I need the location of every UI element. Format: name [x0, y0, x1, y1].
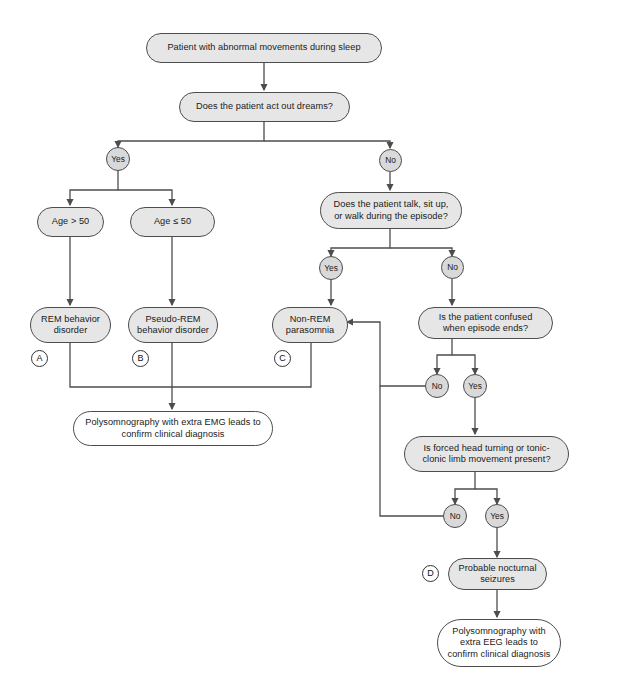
decision-talk-no-label: No [447, 263, 458, 272]
decision-head-yes-label: Yes [490, 512, 504, 521]
decision-confused-no-label: No [432, 382, 443, 391]
decision-talk-no[interactable]: No [441, 256, 464, 279]
flowchart-canvas: Patient with abnormal movements during s… [0, 0, 617, 692]
edge-yes-to-age-under [118, 190, 172, 205]
node-question-confused[interactable]: Is the patient confused when episode end… [418, 307, 553, 339]
tag-b: B [132, 350, 149, 367]
node-age-over-50[interactable]: Age > 50 [37, 207, 104, 237]
node-age-under-50[interactable]: Age ≤ 50 [130, 207, 215, 237]
node-question-act-out-dreams-label: Does the patient act out dreams? [196, 101, 333, 113]
node-non-rem-parasomnia[interactable]: Non-REM parasomnia [272, 307, 348, 343]
decision-talk-yes-label: Yes [324, 264, 338, 273]
tag-c-label: C [279, 354, 286, 363]
decision-head-no-label: No [450, 512, 461, 521]
tag-a-label: A [36, 354, 42, 363]
node-rem-behavior-disorder[interactable]: REM behavior disorder [30, 307, 111, 343]
edge-head-to-no [455, 472, 475, 504]
edge-nonrem-merge [172, 343, 311, 387]
node-probable-nocturnal-seizures[interactable]: Probable nocturnal seizures [448, 558, 547, 590]
edge-talk-to-no [390, 248, 452, 256]
node-age-under-50-label: Age ≤ 50 [154, 216, 191, 228]
decision-dreams-yes[interactable]: Yes [106, 147, 130, 171]
node-probable-nocturnal-seizures-label: Probable nocturnal seizures [457, 563, 538, 586]
tag-c: C [274, 350, 291, 367]
edge-confused-no-to-nonrem [347, 322, 425, 386]
decision-confused-yes-label: Yes [468, 382, 482, 391]
edge-yes-to-age-over [70, 170, 118, 205]
node-age-over-50-label: Age > 50 [52, 216, 89, 228]
tag-d-label: D [427, 569, 434, 578]
decision-head-no[interactable]: No [443, 504, 467, 528]
edge-confused-to-no [437, 339, 452, 374]
node-question-act-out-dreams[interactable]: Does the patient act out dreams? [179, 92, 350, 122]
node-question-head-turning[interactable]: Is forced head turning or tonic-clonic l… [404, 436, 569, 472]
node-start-label: Patient with abnormal movements during s… [167, 42, 360, 54]
edge-dreams-to-yes [118, 122, 264, 147]
edge-head-to-yes [475, 489, 497, 504]
node-question-talk-sit-walk[interactable]: Does the patient talk, sit up, or walk d… [320, 192, 462, 229]
node-question-head-turning-label: Is forced head turning or tonic-clonic l… [413, 443, 560, 466]
decision-dreams-no-label: No [385, 156, 396, 165]
node-rem-behavior-disorder-label: REM behavior disorder [39, 314, 102, 337]
edge-talk-to-yes [331, 229, 390, 256]
edge-confused-to-yes [452, 355, 475, 374]
node-polysomnography-eeg-label: Polysomnography with extra EEG leads to … [446, 626, 552, 661]
node-pseudo-rem-behavior-disorder-label: Pseudo-REM behavior disorder [137, 314, 209, 337]
node-question-talk-sit-walk-label: Does the patient talk, sit up, or walk d… [329, 199, 453, 222]
decision-confused-yes[interactable]: Yes [463, 374, 487, 398]
tag-a: A [31, 350, 48, 367]
node-start[interactable]: Patient with abnormal movements during s… [146, 33, 382, 63]
node-non-rem-parasomnia-label: Non-REM parasomnia [281, 314, 339, 337]
decision-talk-yes[interactable]: Yes [319, 256, 343, 280]
decision-dreams-yes-label: Yes [111, 155, 125, 164]
decision-dreams-no[interactable]: No [379, 149, 402, 172]
node-question-confused-label: Is the patient confused when episode end… [427, 312, 544, 335]
decision-head-yes[interactable]: Yes [485, 504, 509, 528]
node-polysomnography-emg[interactable]: Polysomnography with extra EMG leads to … [73, 411, 273, 446]
tag-b-label: B [137, 354, 143, 363]
edge-rbd-merge [70, 343, 172, 387]
decision-confused-no[interactable]: No [425, 374, 449, 398]
node-polysomnography-eeg[interactable]: Polysomnography with extra EEG leads to … [437, 619, 561, 667]
tag-d: D [422, 565, 439, 582]
node-polysomnography-emg-label: Polysomnography with extra EMG leads to … [82, 417, 264, 440]
node-pseudo-rem-behavior-disorder[interactable]: Pseudo-REM behavior disorder [128, 307, 218, 343]
edge-dreams-to-no [264, 141, 390, 148]
